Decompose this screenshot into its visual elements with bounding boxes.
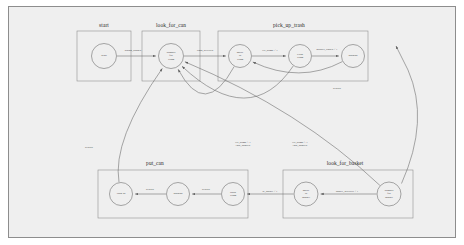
edge-label-wander-to-move-trash: trash_detected — [197, 49, 213, 52]
edge-label-start-to-wander: button_pushed — [125, 49, 141, 52]
node-label-line: Start — [101, 54, 106, 57]
cluster-label-start: start — [99, 22, 109, 28]
edge-label-drop-to-backup-bottom: always — [202, 188, 210, 191]
diagram-canvas: startlook_for_canpick_up_trashput_canloo… — [0, 0, 464, 245]
cluster-label-put_can: put_can — [146, 160, 164, 166]
node-label-move_to_basket: MovetoBasket — [302, 189, 310, 199]
edge-label-backup-bottom-to-turn: always — [146, 188, 154, 191]
cluster-label-pick_up_trash: pick_up_trash — [273, 22, 305, 28]
edge-label-line: task_aborted — [292, 144, 307, 147]
node-label-move_to_trash: MovetoTrash — [237, 51, 244, 61]
edge-label-line: always — [202, 188, 210, 191]
node-label-line: Trash — [167, 58, 176, 61]
edge-wander-basket-up-right — [396, 46, 418, 184]
edge-label-grab-to-backup-top: gripper_closed < 1 — [317, 48, 338, 51]
node-label-wander_basket: WanderforBasket — [385, 189, 394, 199]
edge-label-line: task_aborted — [235, 144, 250, 147]
edge-label-line: gripper_closed < 1 — [317, 48, 338, 51]
node-label-turn_90: Turn 90 — [116, 192, 125, 195]
node-label-backup_top: Backup — [349, 54, 358, 57]
edge-label-line: always — [146, 188, 154, 191]
edge-label-move-trash-to-grab: tilt_bump < 1 — [262, 49, 277, 52]
node-label-start: Start — [101, 54, 106, 57]
edge-label-line: trash_detected — [197, 49, 213, 52]
node-label-line: Turn 90 — [116, 192, 125, 195]
node-label-wander_trash: WanderforTrash — [167, 51, 176, 61]
edge-label-line: button_pushed — [125, 49, 141, 52]
edge-label-move-trash-to-wander: tilt_bump > 1task_aborted — [235, 141, 250, 147]
edge-label-turn-to-wander-trash: always — [85, 146, 93, 149]
edge-label-grab-to-wander: tilt_bump > 1task_aborted — [292, 141, 307, 147]
edge-label-wander-basket-to-move: basket_detected < 1 — [336, 190, 358, 193]
edge-label-line: always — [333, 87, 341, 90]
edge-label-line: tilt_bump < 1 — [262, 49, 277, 52]
diagram-graphics — [0, 0, 464, 245]
node-label-line: Basket — [302, 196, 310, 199]
node-label-line: Trash — [230, 194, 236, 197]
node-label-line: Trash — [237, 58, 244, 61]
node-label-line: Backup — [174, 192, 183, 195]
cluster-label-look_for_basket: look_for_basket — [327, 160, 364, 166]
node-label-line: Basket — [385, 196, 394, 199]
node-label-drop_trash: DropTrash — [230, 191, 236, 198]
node-label-backup_bottom: Backup — [174, 192, 183, 195]
edge-label-line: always — [85, 146, 93, 149]
edge-label-line: at_basket < 1 — [263, 190, 278, 193]
edge-label-line: basket_detected < 1 — [336, 190, 358, 193]
edge-label-move-basket-to-drop: at_basket < 1 — [263, 190, 278, 193]
node-label-grab_trash: GrabTrash — [297, 53, 303, 60]
node-label-line: Trash — [297, 56, 303, 59]
cluster-label-look_for_can: look_for_can — [156, 22, 186, 28]
node-label-line: Backup — [349, 54, 358, 57]
edge-label-backup-top-to-wander: always — [333, 87, 341, 90]
